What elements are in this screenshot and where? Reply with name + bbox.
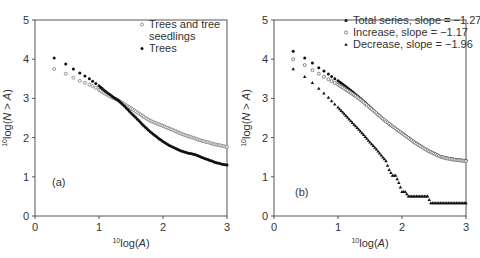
- chart-panel-b: 012345012310log(A)10log(N > A)(b)Total s…: [240, 14, 480, 249]
- legend-entry: Increase, slope = −1.17: [353, 26, 468, 38]
- legend-entry: Trees and tree: [149, 18, 220, 30]
- y-axis-label: 10log(N > A): [1, 89, 13, 147]
- legend-entry: Trees: [149, 42, 177, 54]
- y-tick-label: 2: [262, 132, 268, 144]
- legend: Total series, slope = −1.27Increase, slo…: [344, 14, 480, 50]
- legend: Trees and treeseedlingsTrees: [141, 18, 221, 54]
- y-tick-label: 3: [23, 92, 29, 104]
- x-tick-label: 1: [96, 221, 102, 233]
- panel-label: (a): [52, 176, 65, 188]
- x-axis-label: 10log(A): [112, 237, 149, 249]
- y-tick-label: 4: [23, 53, 29, 65]
- figure: 012345012310log(A)10log(N > A)(a)Trees a…: [0, 0, 480, 258]
- y-tick-label: 5: [23, 14, 29, 26]
- x-tick-label: 3: [224, 221, 230, 233]
- chart-panel-a: 012345012310log(A)10log(N > A)(a)Trees a…: [1, 14, 230, 249]
- series-0: [292, 50, 468, 162]
- y-tick-label: 4: [262, 53, 268, 65]
- series-1: [53, 57, 229, 167]
- series-1: [292, 58, 468, 163]
- x-tick-label: 0: [32, 221, 38, 233]
- x-tick-label: 1: [335, 221, 341, 233]
- series-2: [292, 67, 468, 204]
- series-0: [53, 68, 229, 149]
- y-tick-label: 1: [262, 171, 268, 183]
- x-axis-label: 10log(A): [351, 237, 388, 249]
- y-axis-label: 10log(N > A): [240, 89, 252, 147]
- y-tick-label: 0: [262, 210, 268, 222]
- x-tick-label: 2: [160, 221, 166, 233]
- y-tick-label: 1: [23, 171, 29, 183]
- x-tick-label: 3: [463, 221, 469, 233]
- legend-entry: Total series, slope = −1.27: [353, 14, 480, 26]
- panel-label: (b): [295, 186, 308, 198]
- x-tick-label: 2: [399, 221, 405, 233]
- x-tick-label: 0: [271, 221, 277, 233]
- y-tick-label: 2: [23, 132, 29, 144]
- legend-entry: seedlings: [149, 30, 196, 42]
- legend-entry: Decrease, slope = −1.96: [353, 38, 473, 50]
- y-tick-label: 5: [262, 14, 268, 26]
- y-tick-label: 3: [262, 92, 268, 104]
- y-tick-label: 0: [23, 210, 29, 222]
